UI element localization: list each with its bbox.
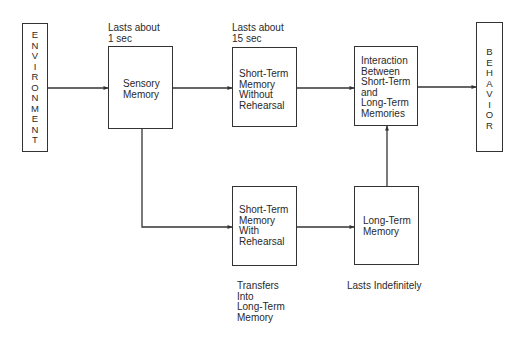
interaction-box: Interaction Between Short-Term and Long-… — [354, 46, 418, 126]
memory-model-diagram: E N V I R O N M E N T Lasts about 1 sec … — [0, 0, 523, 342]
long-term-memory-label: Long-Term Memory — [363, 216, 411, 237]
behavior-box: B E H A V I O R — [476, 22, 503, 152]
behavior-label: B E H A V I O R — [477, 47, 502, 131]
stm-duration-label: Lasts about 15 sec — [232, 23, 284, 44]
environment-box: E N V I R O N M E N T — [22, 23, 48, 152]
long-term-memory-box: Long-Term Memory — [354, 186, 419, 265]
long-term-duration-label: Lasts Indefinitely — [347, 281, 422, 292]
sensory-memory-label: Sensory Memory — [123, 79, 160, 100]
stm-without-rehearsal-label: Short-Term Memory Without Rehearsal — [239, 69, 288, 111]
arrow-sensory-to-stm-with — [142, 129, 232, 227]
stm-with-rehearsal-box: Short-Term Memory With Rehearsal — [232, 186, 297, 266]
sensory-memory-box: Sensory Memory — [108, 46, 173, 129]
interaction-label: Interaction Between Short-Term and Long-… — [361, 56, 410, 119]
environment-label: E N V I R O N M E N T — [23, 30, 47, 146]
stm-with-rehearsal-label: Short-Term Memory With Rehearsal — [239, 205, 288, 247]
stm-without-rehearsal-box: Short-Term Memory Without Rehearsal — [232, 47, 297, 127]
sensory-duration-label: Lasts about 1 sec — [108, 23, 160, 44]
stm-with-note-label: Transfers Into Long-Term Memory — [237, 281, 285, 323]
